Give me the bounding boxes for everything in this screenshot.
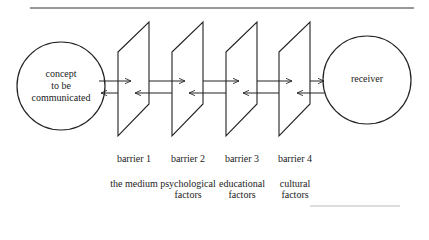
barrier-2-name: barrier 2 (158, 153, 218, 164)
barrier-1-shape (118, 22, 149, 136)
barrier-3-name: barrier 3 (212, 153, 272, 164)
barrier-4-description-line-1: cultural (260, 178, 330, 189)
receiver-label: receiver (322, 73, 412, 85)
barrier-4-name: barrier 4 (265, 153, 325, 164)
barrier-4-description: cultural factors (260, 178, 330, 200)
receiver-label-text: receiver (351, 73, 383, 84)
barrier-3-shape (226, 22, 257, 136)
sender-label-line-2: to be (26, 80, 96, 92)
barrier-4-shape (279, 22, 310, 136)
barrier-1-name: barrier 1 (104, 153, 164, 164)
barrier-4-description-line-2: factors (260, 189, 330, 200)
sender-label: concept to be communicated (26, 68, 96, 104)
sender-label-line-3: communicated (26, 92, 96, 104)
barrier-2-shape (172, 22, 203, 136)
sender-label-line-1: concept (26, 68, 96, 80)
